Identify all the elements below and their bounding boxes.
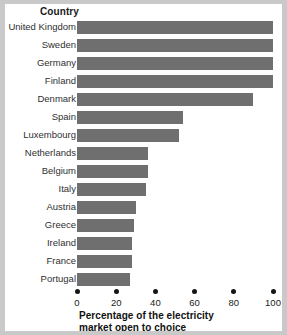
bar <box>77 147 148 160</box>
bar-row: Spain <box>5 109 282 127</box>
bar-track <box>77 181 282 199</box>
bar-track <box>77 109 282 127</box>
bar-track <box>77 19 282 37</box>
bar-row: Luxembourg <box>5 127 282 145</box>
bar-row: Italy <box>5 181 282 199</box>
value-axis-caption-line-2: market open to choice <box>79 322 275 331</box>
bar-track <box>77 199 282 217</box>
bar-track <box>77 37 282 55</box>
axis-tick-dot-icon <box>114 289 119 294</box>
bar-row-label: Sweden <box>5 39 76 50</box>
bar-track <box>77 253 282 271</box>
bar-row: Austria <box>5 199 282 217</box>
bar-row: Germany <box>5 55 282 73</box>
bar-row: Belgium <box>5 163 282 181</box>
bar <box>77 93 253 106</box>
axis-tick-dot-icon <box>231 289 236 294</box>
bar <box>77 273 130 286</box>
bar-row: United Kingdom <box>5 19 282 37</box>
bar-track <box>77 127 282 145</box>
bar-row-label: Ireland <box>5 237 76 248</box>
bar-row: Ireland <box>5 235 282 253</box>
bar <box>77 75 273 88</box>
bar <box>77 21 273 34</box>
bar-row-label: Belgium <box>5 165 76 176</box>
bar-track <box>77 217 282 235</box>
axis-tick-label: 60 <box>181 297 209 308</box>
bar <box>77 111 183 124</box>
bar-row: Netherlands <box>5 145 282 163</box>
bar <box>77 183 146 196</box>
bar-row-label: Germany <box>5 57 76 68</box>
bar-row: Denmark <box>5 91 282 109</box>
bar-row-label: Finland <box>5 75 76 86</box>
bar <box>77 165 148 178</box>
bar <box>77 39 273 52</box>
chart-figure: Country United KingdomSwedenGermanyFinla… <box>0 0 287 335</box>
bar-row: Sweden <box>5 37 282 55</box>
bar <box>77 129 179 142</box>
bar <box>77 57 273 70</box>
bar-track <box>77 91 282 109</box>
axis-tick-label: 0 <box>63 297 91 308</box>
bar-row-label: Luxembourg <box>5 129 76 140</box>
bar-row-label: Italy <box>5 183 76 194</box>
bar-row-label: Austria <box>5 201 76 212</box>
axis-tick-label: 80 <box>220 297 248 308</box>
value-axis-caption: Percentage of the electricity market ope… <box>79 310 275 331</box>
axis-tick-dot-icon <box>75 289 80 294</box>
axis-tick-label: 100 <box>259 297 282 308</box>
axis-tick-label: 40 <box>141 297 169 308</box>
bar-track <box>77 163 282 181</box>
axis-tick-label: 20 <box>102 297 130 308</box>
bar-row-label: Spain <box>5 111 76 122</box>
chart-plot-area: Country United KingdomSwedenGermanyFinla… <box>5 4 282 331</box>
bar-track <box>77 55 282 73</box>
bar-row-label: United Kingdom <box>5 21 76 32</box>
category-axis-header: Country <box>5 6 79 17</box>
bar <box>77 255 132 268</box>
bar-row-label: Netherlands <box>5 147 76 158</box>
bar-row: France <box>5 253 282 271</box>
bar-row-label: Portugal <box>5 273 76 284</box>
axis-tick-dot-icon <box>153 289 158 294</box>
bar-track <box>77 271 282 289</box>
bar-rows: United KingdomSwedenGermanyFinlandDenmar… <box>5 19 282 289</box>
value-axis-caption-line-1: Percentage of the electricity <box>79 310 275 322</box>
bar <box>77 201 136 214</box>
bar-row-label: Greece <box>5 219 76 230</box>
bar-row-label: France <box>5 255 76 266</box>
axis-tick-dot-icon <box>271 289 276 294</box>
bar-row: Portugal <box>5 271 282 289</box>
bar-row-label: Denmark <box>5 93 76 104</box>
axis-tick-dot-icon <box>192 289 197 294</box>
bar-row: Finland <box>5 73 282 91</box>
bar-track <box>77 145 282 163</box>
bar <box>77 219 134 232</box>
bar-track <box>77 235 282 253</box>
bar-track <box>77 73 282 91</box>
bar <box>77 237 132 250</box>
bar-row: Greece <box>5 217 282 235</box>
